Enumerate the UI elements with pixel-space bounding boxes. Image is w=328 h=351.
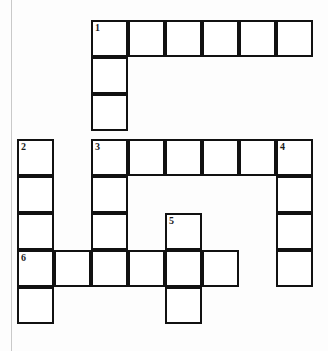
cell-number-1: 1 bbox=[95, 22, 100, 33]
crossword-cell[interactable] bbox=[128, 20, 165, 57]
crossword-cell[interactable] bbox=[202, 250, 239, 287]
crossword-cell[interactable]: 1 bbox=[91, 20, 128, 57]
crossword-cell[interactable]: 3 bbox=[91, 139, 128, 176]
crossword-cell[interactable] bbox=[17, 176, 54, 213]
cell-number-2: 2 bbox=[21, 141, 26, 152]
crossword-cell[interactable] bbox=[17, 287, 54, 324]
crossword-cell[interactable] bbox=[91, 176, 128, 213]
cell-number-4: 4 bbox=[280, 141, 285, 152]
crossword-grid[interactable]: 123456 bbox=[0, 0, 328, 351]
crossword-cell[interactable]: 4 bbox=[276, 139, 313, 176]
crossword-cell[interactable] bbox=[239, 20, 276, 57]
crossword-cell[interactable] bbox=[165, 250, 202, 287]
crossword-cell[interactable] bbox=[17, 213, 54, 250]
crossword-cell[interactable] bbox=[202, 139, 239, 176]
crossword-cell[interactable] bbox=[276, 250, 313, 287]
cell-number-5: 5 bbox=[169, 215, 174, 226]
crossword-cell[interactable] bbox=[239, 139, 276, 176]
cell-number-6: 6 bbox=[21, 252, 26, 263]
crossword-cell[interactable] bbox=[276, 213, 313, 250]
crossword-cell[interactable] bbox=[91, 250, 128, 287]
crossword-page: 123456 bbox=[0, 0, 328, 351]
crossword-cell[interactable] bbox=[91, 57, 128, 94]
crossword-cell[interactable]: 5 bbox=[165, 213, 202, 250]
crossword-cell[interactable] bbox=[276, 176, 313, 213]
crossword-cell[interactable]: 2 bbox=[17, 139, 54, 176]
crossword-cell[interactable] bbox=[165, 20, 202, 57]
crossword-cell[interactable] bbox=[91, 94, 128, 131]
cell-number-3: 3 bbox=[95, 141, 100, 152]
crossword-cell[interactable] bbox=[202, 20, 239, 57]
crossword-cell[interactable] bbox=[165, 139, 202, 176]
crossword-cell[interactable] bbox=[165, 287, 202, 324]
crossword-cell[interactable] bbox=[54, 250, 91, 287]
crossword-cell[interactable] bbox=[276, 20, 313, 57]
crossword-cell[interactable] bbox=[91, 213, 128, 250]
crossword-cell[interactable]: 6 bbox=[17, 250, 54, 287]
crossword-cell[interactable] bbox=[128, 250, 165, 287]
crossword-cell[interactable] bbox=[128, 139, 165, 176]
